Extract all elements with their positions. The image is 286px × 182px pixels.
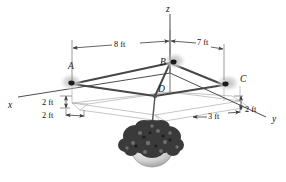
point-label-d: D: [157, 84, 165, 94]
axis-label-y: y: [271, 114, 277, 124]
dimension-label-c-drop: 2 ft: [245, 105, 257, 114]
dimension-label-a-offset: 2 ft: [42, 111, 54, 120]
junction-d-dot: [153, 94, 157, 98]
point-label-a: A: [67, 61, 74, 71]
axis-label-x: x: [7, 100, 13, 110]
mechanics-figure: x y z A B: [0, 0, 286, 182]
dimension-label-bc: 7 ft: [197, 38, 209, 47]
anchor-c: [217, 75, 240, 92]
anchor-b: [164, 53, 186, 70]
axis-group: [18, 14, 266, 117]
dimension-label-c-offset: 3 ft: [208, 112, 220, 121]
figure-canvas: x y z A B: [0, 0, 286, 182]
hanging-plant: [118, 120, 184, 167]
dimension-label-a-drop: 2 ft: [42, 98, 54, 107]
dimension-ab: [72, 30, 170, 80]
axis-x-line: [18, 73, 170, 97]
rail-a-to-d: [72, 84, 155, 96]
axis-label-z: z: [165, 4, 170, 14]
dimension-label-ab: 8 ft: [114, 40, 126, 49]
dimension-a-drop: [60, 96, 72, 108]
anchor-a: [60, 74, 82, 91]
point-label-c: C: [240, 74, 247, 84]
point-label-b: B: [160, 57, 166, 67]
